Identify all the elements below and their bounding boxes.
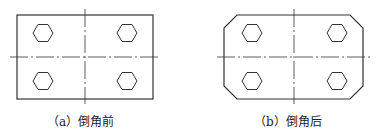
caption-a: （a）倒角前 <box>47 112 114 129</box>
caption-b: （b）倒角后 <box>254 112 322 129</box>
hex-bolt-icon <box>327 73 347 90</box>
hex-bolt-icon <box>242 25 262 42</box>
hex-bolt-icon <box>33 25 53 42</box>
hex-bolt-icon <box>242 73 262 90</box>
figure-b-after-chamfer <box>217 9 370 104</box>
hex-bolt-icon <box>33 73 53 90</box>
hex-bolt-icon <box>327 25 347 42</box>
hex-bolt-icon <box>117 73 137 90</box>
hex-bolt-icon <box>117 25 137 42</box>
figure-a-before-chamfer <box>10 9 160 104</box>
